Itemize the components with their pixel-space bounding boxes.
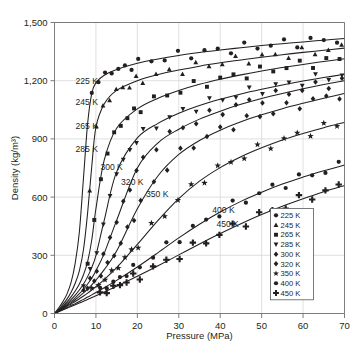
data-point-diamond: [297, 106, 302, 112]
data-point-triangle-up: [313, 52, 318, 56]
data-point-diamond: [88, 276, 93, 282]
data-point-triangle-up: [180, 72, 185, 76]
inline-series-label: 245 K: [76, 97, 99, 107]
data-point-triangle-up: [246, 61, 251, 65]
chart-canvas: 225 K245 K265 K285 K300 K320 K350 K400 K…: [0, 0, 360, 353]
data-point-circle: [308, 36, 312, 40]
data-point-star: [321, 120, 327, 126]
data-point-triangle-down: [247, 86, 252, 90]
data-point-diamond: [205, 134, 210, 140]
data-point-circle: [136, 57, 140, 61]
data-point-star: [115, 265, 121, 271]
data-point-triangle-down: [326, 78, 331, 82]
x-tick-label: 40: [215, 320, 226, 331]
data-point-square: [311, 66, 315, 70]
data-point-diamond: [141, 155, 146, 161]
data-point-diamond: [108, 235, 113, 241]
data-point-plus: [163, 257, 169, 263]
y-tick-label: 0: [42, 308, 47, 319]
data-point-circle: [274, 213, 278, 217]
inline-series-label: 300 K: [100, 162, 123, 172]
data-point-circle: [164, 240, 168, 244]
data-point-square: [99, 177, 103, 181]
data-point-square: [245, 76, 249, 80]
data-point-circle: [189, 56, 193, 60]
x-tick-label: 0: [52, 320, 57, 331]
inline-series-label: 285 K: [76, 144, 99, 154]
data-point-circle: [149, 59, 153, 63]
y-tick-label: 300: [32, 250, 48, 261]
data-point-circle: [284, 186, 288, 190]
data-point-square: [132, 106, 136, 110]
inline-series-label: 350 K: [146, 189, 169, 199]
data-point-plus: [190, 239, 196, 245]
data-point-diamond: [99, 273, 104, 279]
data-point-circle: [244, 201, 248, 205]
data-point-star: [268, 145, 274, 151]
data-point-circle: [123, 63, 127, 67]
data-point-circle: [323, 171, 327, 175]
data-point-square: [232, 72, 236, 76]
data-point-circle: [177, 240, 181, 244]
data-point-circle: [335, 41, 339, 45]
data-point-triangle-up: [134, 74, 139, 78]
legend-item-label: 245 K: [281, 221, 301, 230]
data-point-triangle-down: [134, 141, 139, 145]
data-point-diamond: [207, 108, 212, 114]
inline-series-label: 320 K: [121, 177, 144, 187]
data-point-square: [112, 130, 116, 134]
data-point-square: [274, 233, 278, 237]
data-point-circle: [255, 47, 259, 51]
data-point-circle: [269, 44, 273, 48]
data-point-circle: [176, 49, 180, 53]
data-point-square: [324, 56, 328, 60]
data-point-circle: [257, 191, 261, 195]
data-point-square: [165, 94, 169, 98]
data-point-diamond: [105, 260, 110, 266]
data-point-square: [271, 69, 275, 73]
data-point-triangle-down: [220, 98, 225, 102]
y-tick-label: 1,500: [24, 17, 48, 28]
data-point-triangle-up: [339, 42, 344, 46]
data-point-star: [254, 141, 260, 147]
data-point-triangle-down: [300, 84, 305, 88]
data-point-triangle-up: [154, 72, 159, 76]
data-point-diamond: [165, 167, 170, 173]
x-tick-label: 70: [339, 320, 350, 331]
data-point-diamond: [220, 112, 225, 118]
legend-item-label: 300 K: [281, 250, 301, 259]
data-point-square: [338, 57, 342, 61]
data-point-square: [178, 91, 182, 95]
data-point-diamond: [244, 113, 249, 119]
y-tick-label: 900: [32, 133, 48, 144]
data-point-triangle-down: [101, 223, 106, 227]
x-tick-label: 60: [298, 320, 309, 331]
data-point-circle: [217, 214, 221, 218]
density-pressure-chart: 225 K245 K265 K285 K300 K320 K350 K400 K…: [0, 0, 360, 353]
data-point-circle: [216, 46, 220, 50]
data-point-star: [228, 159, 234, 165]
data-point-triangle-down: [260, 92, 265, 96]
data-point-triangle-up: [273, 52, 278, 56]
data-point-square: [298, 59, 302, 63]
data-point-triangle-down: [234, 96, 239, 100]
legend-item-label: 450 K: [281, 289, 301, 298]
data-point-circle: [191, 224, 195, 228]
data-point-circle: [118, 275, 122, 279]
data-point-triangle-up: [260, 52, 265, 56]
data-point-circle: [138, 265, 142, 269]
data-point-diamond: [340, 76, 345, 82]
data-point-circle: [295, 45, 299, 49]
data-point-triangle-down: [88, 267, 93, 271]
data-point-circle: [163, 58, 167, 62]
data-point-square: [125, 116, 129, 120]
data-point-circle: [297, 172, 301, 176]
data-point-plus: [104, 290, 110, 296]
data-point-circle: [103, 70, 107, 74]
data-point-circle: [270, 183, 274, 187]
data-point-triangle-down: [154, 127, 159, 131]
data-point-plus: [150, 263, 156, 269]
data-point-square: [258, 65, 262, 69]
legend-item-label: 350 K: [281, 269, 301, 278]
data-point-triangle-down: [194, 110, 199, 114]
